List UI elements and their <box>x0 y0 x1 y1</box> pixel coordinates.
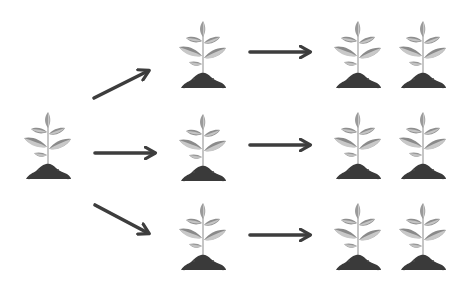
seedling-in-soil-icon <box>398 17 448 89</box>
seedling-in-soil-icon <box>333 199 383 271</box>
seedling-gen2-middle-a <box>333 108 383 180</box>
seedling-gen2-bottom-a <box>333 199 383 271</box>
seedling-in-soil-icon <box>333 17 383 89</box>
seedling-gen2-middle-b <box>398 108 448 180</box>
seedling-gen2-top-a <box>333 17 383 89</box>
seedling-in-soil-icon <box>398 108 448 180</box>
seedling-gen2-bottom-b <box>398 199 448 271</box>
seedling-gen2-top-b <box>398 17 448 89</box>
seedling-in-soil-icon <box>398 199 448 271</box>
seedling-in-soil-icon <box>333 108 383 180</box>
